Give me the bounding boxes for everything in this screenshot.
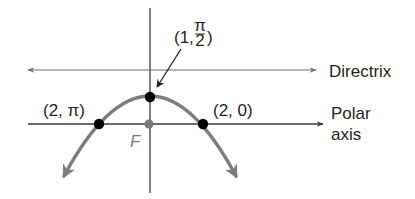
vertex-label: (1, π 2 ) <box>174 16 213 50</box>
vertex-label-denominator: 2 <box>195 31 204 50</box>
polar-parabola-diagram: (1, π 2 ) (2, π) (2, 0) F Directrix Pola… <box>0 0 415 199</box>
left-point-label: (2, π) <box>43 101 85 120</box>
right-point-label: (2, 0) <box>213 101 253 120</box>
vertex-label-suffix: ) <box>207 28 213 47</box>
vertex-label-prefix: (1, <box>174 28 194 47</box>
focus-label: F <box>130 132 142 151</box>
vertex-point <box>145 92 155 102</box>
polar-axis-label-line2: axis <box>331 125 361 144</box>
polar-axis-label-line1: Polar <box>331 104 371 123</box>
directrix-label: Directrix <box>329 62 392 81</box>
focus-point <box>144 119 153 128</box>
left-point <box>94 119 104 129</box>
right-point <box>198 119 208 129</box>
vertex-pointer-arrow <box>157 49 181 87</box>
